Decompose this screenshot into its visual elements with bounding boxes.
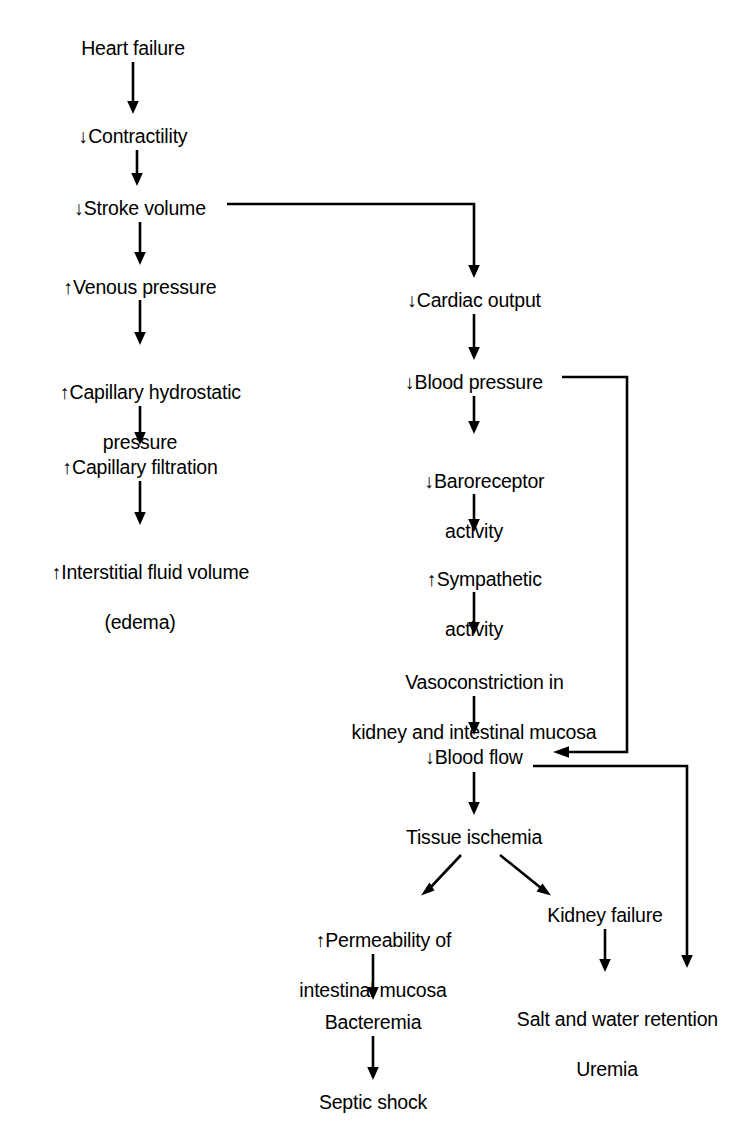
connector-tissue-ischemia-to-permeability xyxy=(421,855,461,896)
connector-contractility-to-stroke-volume xyxy=(131,150,143,186)
flowchart-diagram: Heart failure ↓Contractility ↓Stroke vol… xyxy=(0,0,751,1143)
node-vasoconstriction-line2: kidney and intestinal mucosa xyxy=(352,720,597,745)
node-permeability-line2: intestinal mucosa xyxy=(295,978,451,1003)
node-interstitial-fluid-volume: ↑Interstitial fluid volume (edema) xyxy=(31,535,249,685)
node-capillary-filtration: ↑Capillary filtration xyxy=(62,455,217,480)
node-salt-water-retention-line2: Uremia xyxy=(496,1057,718,1082)
node-salt-water-retention-uremia: Salt and water retention Uremia xyxy=(496,982,718,1132)
connector-blood-pressure-to-baroreceptor xyxy=(468,396,480,434)
node-stroke-volume: ↓Stroke volume xyxy=(74,196,206,221)
node-septic-shock: Septic shock xyxy=(319,1090,427,1115)
connector-venous-pressure-to-capillary-hydrostatic xyxy=(134,300,146,345)
node-capillary-hydrostatic-pressure-line1: ↑Capillary hydrostatic xyxy=(60,381,241,403)
node-venous-pressure: ↑Venous pressure xyxy=(64,275,217,300)
node-baroreceptor-activity-line1: ↓Baroreceptor xyxy=(425,470,545,492)
node-contractility: ↓Contractility xyxy=(79,124,188,149)
node-interstitial-fluid-volume-line2: (edema) xyxy=(31,610,249,635)
node-vasoconstriction: Vasoconstriction in kidney and intestina… xyxy=(352,645,597,795)
node-blood-pressure: ↓Blood pressure xyxy=(405,370,543,395)
node-bacteremia: Bacteremia xyxy=(325,1010,422,1035)
connector-blood-flow-to-salt-water-retention xyxy=(533,766,693,968)
node-baroreceptor-activity-line2: activity xyxy=(404,519,545,544)
connector-kidney-failure-to-salt-water xyxy=(599,929,611,972)
node-capillary-hydrostatic-pressure: ↑Capillary hydrostatic pressure xyxy=(39,355,241,505)
node-vasoconstriction-line1: Vasoconstriction in xyxy=(405,671,563,693)
connector-tissue-ischemia-to-kidney-failure xyxy=(500,855,551,896)
connector-stroke-volume-to-venous-pressure xyxy=(134,222,146,265)
node-sympathetic-activity-line1: ↑Sympathetic xyxy=(427,568,542,590)
node-capillary-hydrostatic-pressure-line2: pressure xyxy=(39,430,241,455)
connector-stroke-volume-to-cardiac-output xyxy=(227,204,480,278)
node-tissue-ischemia: Tissue ischemia xyxy=(406,825,542,850)
node-salt-water-retention-line1: Salt and water retention xyxy=(517,1008,718,1030)
node-cardiac-output: ↓Cardiac output xyxy=(407,288,541,313)
node-interstitial-fluid-volume-line1: ↑Interstitial fluid volume xyxy=(52,561,249,583)
node-sympathetic-activity-line2: activity xyxy=(406,617,542,642)
node-heart-failure: Heart failure xyxy=(81,36,185,61)
node-blood-flow: ↓Blood flow xyxy=(425,745,523,770)
node-kidney-failure: Kidney failure xyxy=(547,903,662,928)
connector-heart-failure-to-contractility xyxy=(127,62,139,114)
node-permeability-line1: ↑Permeability of xyxy=(316,929,452,951)
connector-cardiac-output-to-blood-pressure xyxy=(468,314,480,360)
